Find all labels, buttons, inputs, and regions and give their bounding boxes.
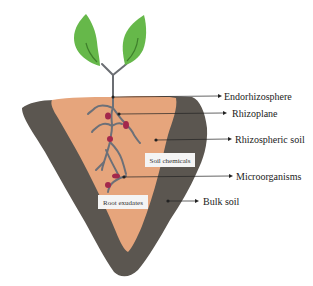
label-microorganisms: Microorganisms <box>236 171 301 182</box>
left-leaf-icon <box>74 14 100 66</box>
label-rhizospheric-soil: Rhizospheric soil <box>235 134 305 145</box>
label-bulk-soil: Bulk soil <box>203 196 240 207</box>
label-endorhizosphere: Endorhizosphere <box>224 91 292 102</box>
soil-chemicals-box: Soil chemicals <box>145 153 195 167</box>
rhizosphere-diagram: Soil chemicals Root exudates Endorhizosp… <box>0 0 313 286</box>
label-rhizoplane: Rhizoplane <box>232 108 278 119</box>
soil-chemicals-label: Soil chemicals <box>149 157 190 165</box>
root-exudates-label: Root exudates <box>103 199 143 207</box>
plant-shoot <box>74 14 146 97</box>
stem <box>102 60 131 97</box>
right-leaf-icon <box>123 15 146 65</box>
root-exudates-box: Root exudates <box>98 195 148 209</box>
